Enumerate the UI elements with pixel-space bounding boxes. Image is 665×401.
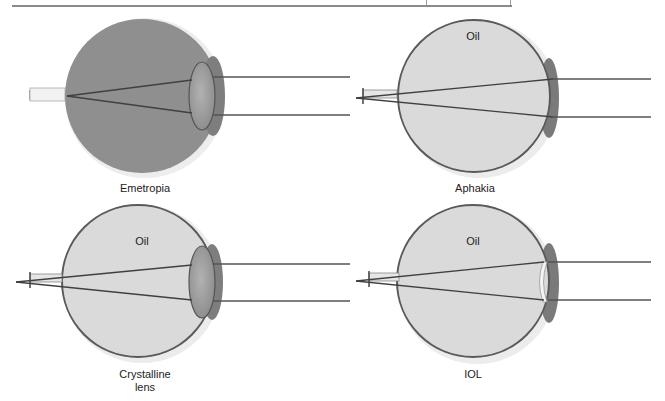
caption-crystalline-line1: Crystalline bbox=[105, 368, 185, 381]
eye-diagram bbox=[0, 0, 665, 401]
oil-label-aphakia: Oil bbox=[458, 30, 488, 43]
caption-emetropia: Emetropia bbox=[110, 182, 180, 195]
panel-crystalline-lens bbox=[16, 205, 350, 363]
crystalline-lens bbox=[189, 246, 215, 318]
oil-label-iol: Oil bbox=[458, 235, 488, 248]
caption-iol: IOL bbox=[453, 368, 493, 381]
panel-iol bbox=[356, 205, 651, 364]
caption-crystalline-line2: lens bbox=[105, 381, 185, 394]
oil-label-crystalline: Oil bbox=[127, 235, 157, 248]
eyeball-iol bbox=[397, 205, 549, 357]
panel-emetropia bbox=[30, 18, 350, 178]
crystalline-lens bbox=[189, 62, 215, 130]
panel-aphakia bbox=[356, 20, 651, 178]
caption-aphakia: Aphakia bbox=[440, 182, 510, 195]
